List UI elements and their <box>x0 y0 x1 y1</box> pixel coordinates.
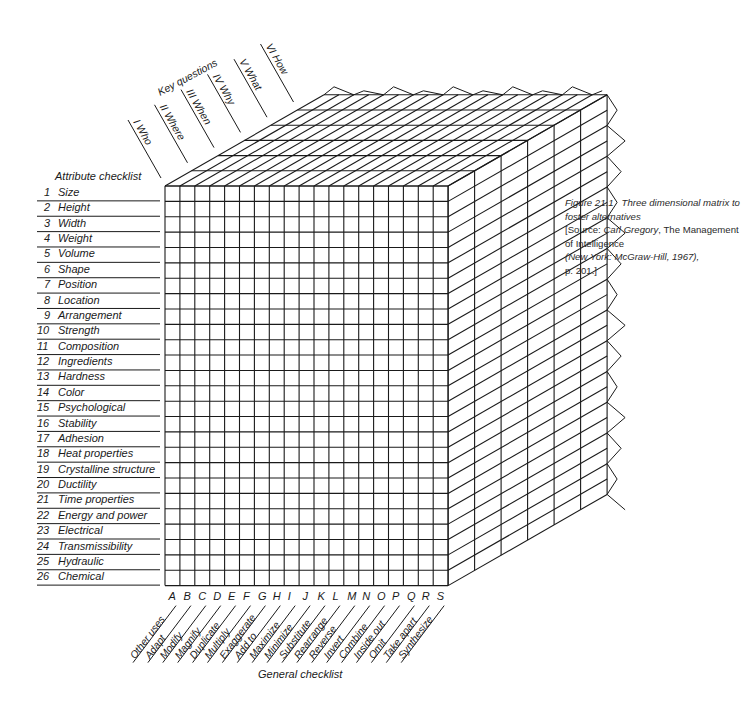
svg-text:17: 17 <box>37 432 50 444</box>
svg-text:26: 26 <box>36 570 50 582</box>
attribute-row: 18Heat properties <box>37 447 160 462</box>
svg-text:Hardness: Hardness <box>58 370 106 382</box>
caption-source-prefix: [Source: <box>565 224 601 235</box>
svg-text:19: 19 <box>37 463 49 475</box>
svg-text:16: 16 <box>37 417 50 429</box>
svg-text:III When: III When <box>184 87 214 127</box>
svg-text:Size: Size <box>58 186 79 198</box>
key-question-6: VI How <box>261 41 294 102</box>
svg-text:Heat properties: Heat properties <box>58 447 134 459</box>
svg-text:15: 15 <box>37 401 50 413</box>
attribute-row: 6Shape <box>37 263 160 278</box>
svg-text:Strength: Strength <box>58 324 100 336</box>
attribute-row: 1Size <box>37 186 160 201</box>
attribute-row: 11Composition <box>37 340 160 355</box>
key-question-4: IV Why <box>208 71 241 132</box>
svg-text:Ingredients: Ingredients <box>58 355 113 367</box>
attribute-row: 20Ductility <box>36 478 160 493</box>
svg-text:25: 25 <box>36 555 50 567</box>
svg-text:9: 9 <box>44 309 50 321</box>
column-letter: M <box>347 590 357 602</box>
general-checklist-title: General checklist <box>258 668 343 680</box>
svg-text:Stability: Stability <box>58 417 98 429</box>
key-question-2: II Where <box>155 102 189 163</box>
general-checklist-axis: ABCDEFGHIJKLMNOPQRSOther usesAdaptModify… <box>128 590 445 680</box>
svg-text:Composition: Composition <box>58 340 119 352</box>
caption-author: Carl Gregory <box>603 224 658 235</box>
column-letter: L <box>332 590 338 602</box>
svg-text:14: 14 <box>37 386 49 398</box>
attribute-row: 3Width <box>37 217 160 232</box>
attribute-row: 21Time properties <box>36 493 160 508</box>
svg-text:Shape: Shape <box>58 263 90 275</box>
column-letter: D <box>213 590 221 602</box>
svg-text:12: 12 <box>37 355 49 367</box>
svg-text:Weight: Weight <box>58 232 93 244</box>
column-letter: B <box>183 590 190 602</box>
attribute-row: 10Strength <box>37 324 160 339</box>
svg-text:IV Why: IV Why <box>211 71 239 107</box>
attribute-row: 16Stability <box>37 417 160 432</box>
svg-text:Height: Height <box>58 201 91 213</box>
svg-text:Psychological: Psychological <box>58 401 126 413</box>
attribute-row: 24Transmissibility <box>36 540 160 555</box>
figure-caption: Figure 21.1 Three dimensional matrix to … <box>565 196 745 278</box>
svg-text:Volume: Volume <box>58 247 95 259</box>
svg-text:8: 8 <box>44 294 51 306</box>
attribute-row: 8Location <box>37 294 160 309</box>
svg-text:24: 24 <box>36 540 49 552</box>
column-letter: N <box>362 590 370 602</box>
svg-text:7: 7 <box>44 278 51 290</box>
svg-text:1: 1 <box>44 186 50 198</box>
attribute-row: 2Height <box>37 201 160 216</box>
svg-text:3: 3 <box>44 217 51 229</box>
attribute-row: 15Psychological <box>37 401 160 416</box>
column-letter: K <box>318 590 326 602</box>
attribute-row: 26Chemical <box>36 570 160 585</box>
svg-text:2: 2 <box>43 201 50 213</box>
svg-text:11: 11 <box>37 340 48 352</box>
column-letter: J <box>302 590 309 602</box>
attribute-row: 17Adhesion <box>37 432 160 447</box>
svg-text:Adhesion: Adhesion <box>57 432 104 444</box>
attribute-row: 25Hydraulic <box>36 555 160 570</box>
svg-text:18: 18 <box>37 447 50 459</box>
svg-text:Time properties: Time properties <box>58 493 135 505</box>
svg-text:5: 5 <box>44 247 51 259</box>
attribute-row: 13Hardness <box>37 370 160 385</box>
attribute-row: 4Weight <box>37 232 160 247</box>
column-letter: S <box>437 590 445 602</box>
attribute-row: 7Position <box>37 278 160 293</box>
svg-text:Crystalline structure: Crystalline structure <box>58 463 155 475</box>
svg-text:Location: Location <box>58 294 100 306</box>
svg-text:V What: V What <box>237 56 265 93</box>
column-letter: H <box>273 590 281 602</box>
three-dimensional-matrix-diagram: I WhoII WhereIII WhenIV WhyV WhatVI HowK… <box>0 0 746 706</box>
svg-text:Position: Position <box>58 278 97 290</box>
svg-text:21: 21 <box>36 493 49 505</box>
svg-text:4: 4 <box>44 232 50 244</box>
svg-text:VI How: VI How <box>264 41 292 78</box>
svg-text:Transmissibility: Transmissibility <box>58 540 134 552</box>
svg-text:20: 20 <box>36 478 50 490</box>
attribute-row: 5Volume <box>37 247 160 262</box>
column-letter: P <box>392 590 400 602</box>
attribute-checklist-axis: Attribute checklist1Size2Height3Width4We… <box>36 170 160 585</box>
attribute-row: 12Ingredients <box>37 355 160 370</box>
attribute-row: 9Arrangement <box>37 309 160 324</box>
column-letter: O <box>377 590 386 602</box>
matrix-cube <box>165 87 625 586</box>
svg-text:Width: Width <box>58 217 86 229</box>
svg-text:Color: Color <box>58 386 86 398</box>
caption-number: Figure 21.1 <box>565 197 614 208</box>
svg-text:Energy and power: Energy and power <box>58 509 149 521</box>
svg-text:Ductility: Ductility <box>58 478 98 490</box>
caption-page: p. 201.] <box>565 265 597 276</box>
column-letter: G <box>258 590 267 602</box>
svg-text:Chemical: Chemical <box>58 570 104 582</box>
key-question-1: I Who <box>128 117 161 178</box>
column-letter: Q <box>407 590 416 602</box>
svg-text:22: 22 <box>36 509 49 521</box>
caption-publisher: (New York: McGraw-Hill, 1967), <box>565 251 699 262</box>
svg-text:Hydraulic: Hydraulic <box>58 555 104 567</box>
